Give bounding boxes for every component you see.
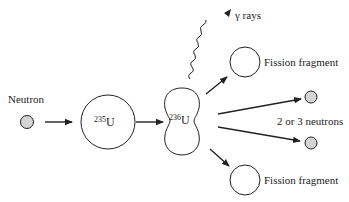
- u235-label: 235U: [94, 115, 115, 129]
- gamma-ray-wave: [189, 20, 206, 79]
- arrow-to-top-fragment: [206, 77, 227, 94]
- u236-label: 236U: [169, 113, 190, 127]
- arrow-to-neutron-1: [218, 99, 301, 114]
- fission-fragment-bottom: [230, 165, 260, 195]
- neutrons-count-label: 2 or 3 neutrons: [277, 115, 343, 127]
- fission-fragment-top: [230, 47, 260, 77]
- fission-fragment-top-label: Fission fragment: [264, 56, 338, 68]
- neutron-label: Neutron: [8, 93, 45, 105]
- fission-fragment-bottom-label: Fission fragment: [264, 174, 338, 186]
- incoming-neutron-icon: [21, 116, 34, 129]
- fission-diagram: Neutron 235U 236U γ rays Fission fragmen…: [0, 0, 349, 202]
- arrow-to-bottom-fragment: [210, 149, 229, 166]
- outgoing-neutron-1-icon: [305, 91, 317, 103]
- arrow-to-neutron-2: [218, 127, 300, 141]
- outgoing-neutron-2-icon: [305, 137, 317, 149]
- gamma-arrowhead-icon: [224, 9, 231, 17]
- gamma-rays-label: γ rays: [234, 9, 261, 21]
